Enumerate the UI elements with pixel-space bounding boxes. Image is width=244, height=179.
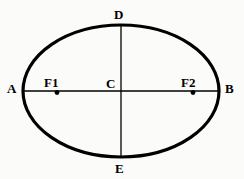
ellipse-diagram: A B C D E F1 F2	[0, 0, 244, 179]
focus-point-f1-dot	[55, 90, 60, 95]
ellipse-drawing-canvas	[0, 0, 244, 179]
focus-label-f1: F1	[44, 76, 58, 89]
point-label-a: A	[7, 82, 16, 95]
point-label-d: D	[114, 8, 123, 21]
point-label-c: C	[106, 77, 115, 90]
focus-point-f2-dot	[191, 90, 196, 95]
point-label-e: E	[115, 162, 124, 175]
focus-label-f2: F2	[181, 76, 195, 89]
point-label-b: B	[225, 82, 234, 95]
